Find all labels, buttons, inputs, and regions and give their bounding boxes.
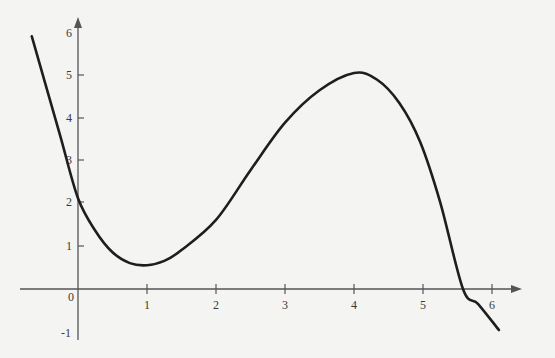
y-tick-label-neg1: -1 [61,326,71,340]
y-tick-label-2: 2 [66,195,72,209]
y-tick-label-5: 5 [66,68,72,82]
x-tick-label-5: 5 [420,298,426,312]
y-ticks [78,75,84,246]
x-tick-label-6: 6 [489,298,495,312]
origin-label: 0 [68,290,74,304]
y-tick-label-6: 6 [66,26,72,40]
y-axis-arrow-icon [74,17,82,28]
x-tick-label-1: 1 [144,298,150,312]
y-axis [74,17,82,340]
function-curve [32,36,499,330]
x-axis-arrow-icon [511,285,522,293]
x-tick-labels: 1 2 3 4 5 6 0 [68,290,495,312]
function-plot: 1 2 3 4 5 6 0 -1 1 2 3 4 5 6 [0,0,555,358]
x-tick-label-4: 4 [351,298,357,312]
y-tick-label-4: 4 [66,111,72,125]
x-axis [20,285,522,293]
x-tick-label-3: 3 [282,298,288,312]
x-tick-label-2: 2 [213,298,219,312]
y-tick-label-1: 1 [66,239,72,253]
